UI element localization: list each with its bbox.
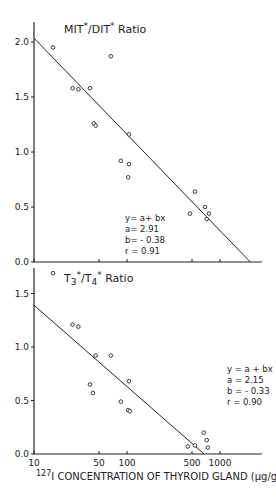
bottom-plot-title: T3*/T4* Ratio (63, 270, 134, 287)
x-tick-label: 1000 (209, 458, 232, 468)
data-point (202, 431, 206, 435)
data-point (109, 354, 113, 358)
x-tick-label: 500 (183, 458, 200, 468)
x-tick-label: 10 (28, 458, 40, 468)
x-tick-label: 100 (118, 458, 135, 468)
y-tick-label: 0.5 (15, 202, 29, 212)
y-tick-label: 1.5 (15, 92, 29, 102)
x-tick-label: 50 (93, 458, 105, 468)
data-point (94, 354, 98, 358)
y-tick-label: 0.5 (15, 396, 29, 406)
data-point (205, 217, 209, 221)
svg-text:r = 0.91: r = 0.91 (125, 246, 160, 256)
data-point (128, 409, 132, 413)
x-axis-label: 127I CONCENTRATION OF THYROID GLAND (µg/… (36, 469, 276, 482)
data-point (193, 444, 197, 448)
svg-text:r = 0.90: r = 0.90 (227, 397, 262, 407)
regression-line (34, 305, 204, 454)
data-point (51, 46, 55, 50)
top-fit-annotation: y= a+ bx a= 2.91 b= - 0.38 r = 0.91 (125, 213, 165, 256)
data-point (205, 438, 209, 442)
data-point (88, 86, 92, 90)
data-point (126, 176, 130, 180)
data-point (186, 445, 190, 449)
data-point (127, 379, 131, 383)
data-point (109, 55, 113, 59)
data-point (203, 205, 207, 209)
svg-text:a= 2.91: a= 2.91 (125, 224, 159, 234)
data-point (77, 325, 81, 329)
data-point (127, 162, 131, 166)
data-point (71, 86, 75, 90)
data-point (193, 190, 197, 194)
y-tick-label: 1.0 (15, 147, 30, 157)
data-point (88, 383, 92, 387)
data-point (119, 159, 123, 163)
data-point (119, 400, 123, 404)
data-point (94, 124, 98, 128)
chart-figure: 2.01.51.00.50.0 1.51.00.50.0105010050010… (0, 0, 276, 497)
top-plot-title: MIT*/DIT* Ratio (64, 21, 147, 36)
svg-text:y = a + bx: y = a + bx (227, 364, 273, 374)
data-point (51, 271, 55, 275)
data-point (91, 391, 95, 395)
t3-t4-plot: 1.51.00.50.010501005001000 (15, 268, 262, 468)
svg-text:y= a+ bx: y= a+ bx (125, 213, 165, 223)
bottom-fit-annotation: y = a + bx a = 2.15 b = - 0.33 r = 0.90 (227, 364, 273, 407)
y-tick-label: 2.0 (15, 37, 30, 47)
svg-text:b = - 0.33: b = - 0.33 (227, 386, 270, 396)
data-point (207, 212, 211, 216)
svg-text:a = 2.15: a = 2.15 (227, 375, 264, 385)
y-tick-label: 1.5 (15, 289, 29, 299)
data-point (127, 133, 131, 137)
data-point (206, 446, 210, 450)
data-point (71, 323, 75, 327)
y-tick-label: 0.0 (15, 257, 30, 267)
y-tick-label: 0.0 (15, 449, 30, 459)
data-point (188, 212, 192, 216)
y-tick-label: 1.0 (15, 342, 30, 352)
svg-text:b= - 0.38: b= - 0.38 (125, 235, 165, 245)
data-point (77, 88, 81, 92)
